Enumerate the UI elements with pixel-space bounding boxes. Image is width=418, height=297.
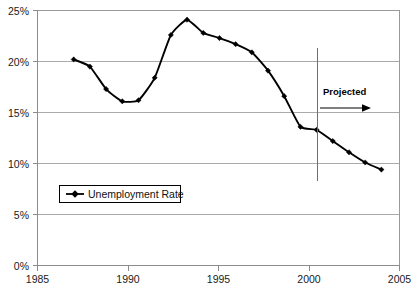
plot-background (38, 11, 400, 266)
y-axis-labels: 25% 20% 15% 10% 5% 0% (8, 5, 29, 272)
unemployment-rate-line-chart: 25% 20% 15% 10% 5% 0% 1985 1990 1995 200… (0, 0, 418, 297)
x-tick-label-2005: 2005 (388, 273, 412, 285)
y-tick-label-10: 10% (8, 158, 29, 170)
chart-container: 25% 20% 15% 10% 5% 0% 1985 1990 1995 200… (0, 0, 418, 297)
y-tick-label-20: 20% (8, 56, 29, 68)
x-axis-ticks (38, 266, 400, 271)
x-tick-label-1990: 1990 (116, 273, 140, 285)
legend-label-unemployment-rate: Unemployment Rate (88, 188, 184, 200)
x-tick-label-2000: 2000 (297, 273, 321, 285)
y-tick-label-25: 25% (8, 5, 29, 17)
projected-label: Projected (323, 86, 366, 97)
y-tick-label-0: 0% (14, 260, 29, 272)
x-tick-label-1985: 1985 (26, 273, 50, 285)
x-tick-label-1995: 1995 (207, 273, 231, 285)
y-tick-label-5: 5% (14, 209, 29, 221)
y-axis-ticks (33, 11, 38, 266)
y-tick-label-15: 15% (8, 107, 29, 119)
x-axis-labels: 1985 1990 1995 2000 2005 (26, 273, 412, 285)
legend: Unemployment Rate (60, 186, 184, 203)
